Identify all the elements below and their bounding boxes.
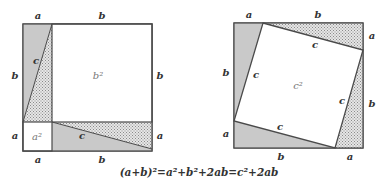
formula: (a+b)²=a²+b²+2ab=c²+2ab [120,166,279,178]
a-squared-label: a² [32,131,42,142]
c-top-label: c [312,39,318,50]
left-upper-c-label: c [33,55,39,66]
right-right-a-label: a [369,30,375,41]
right-side-b-label: b [157,70,164,81]
left-bottom-b-label: b [99,154,106,165]
right-left-a-label: a [223,128,229,139]
right-side-a-label: a [157,130,163,141]
c-left-label: c [253,69,259,80]
right-top-a-label: a [246,9,252,20]
c-right-label: c [339,95,345,106]
right-top-b-label: b [315,9,322,20]
pythagorean-proof-diagram: a b b a b a a b c c b² a² a b a b b a b … [0,0,389,188]
left-lower-c-label: c [79,130,85,141]
left-top-a-label: a [35,10,41,21]
right-left-b-label: b [223,67,230,78]
left-bottom-a-label: a [35,154,41,165]
left-top-b-label: b [99,10,106,21]
c-squared-label: c² [293,80,303,91]
left-side-b-label: b [12,70,19,81]
right-bottom-a-label: a [347,151,353,162]
c-bottom-label: c [277,121,283,132]
right-figure: a b a b b a b a c c c c c² [223,9,376,162]
right-right-b-label: b [369,98,376,109]
b-squared-label: b² [93,70,103,81]
left-figure: a b b a b a a b c c b² a² [12,10,164,165]
left-side-a-label: a [12,130,18,141]
right-bottom-b-label: b [278,151,285,162]
